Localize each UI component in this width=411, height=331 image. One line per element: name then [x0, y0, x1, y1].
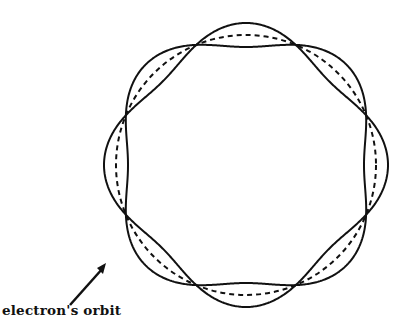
- standing-wave-negative: [104, 23, 388, 307]
- standing-wave-diagram: [0, 0, 411, 331]
- label-pointer-arrow: [70, 268, 103, 305]
- electron-orbit-label: electron's orbit: [2, 302, 121, 318]
- electron-orbit-circle: [116, 35, 376, 295]
